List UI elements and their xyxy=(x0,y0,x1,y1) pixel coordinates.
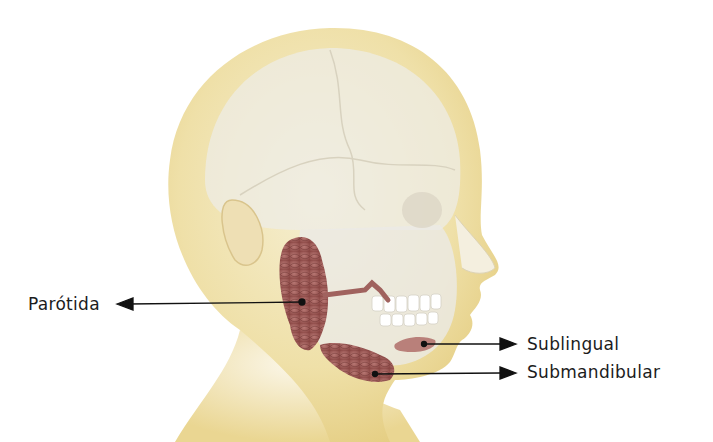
eye-orbit xyxy=(402,192,442,228)
arrow-right-icon xyxy=(500,338,516,350)
label-submandibular: Submandibular xyxy=(527,362,660,382)
arrow-left-icon xyxy=(117,298,133,310)
label-parotid: Parótida xyxy=(28,294,100,314)
salivary-gland-diagram: Parótida Sublingual Submandibular xyxy=(0,0,713,442)
label-sublingual: Sublingual xyxy=(527,334,619,354)
arrow-right-icon xyxy=(500,367,516,379)
